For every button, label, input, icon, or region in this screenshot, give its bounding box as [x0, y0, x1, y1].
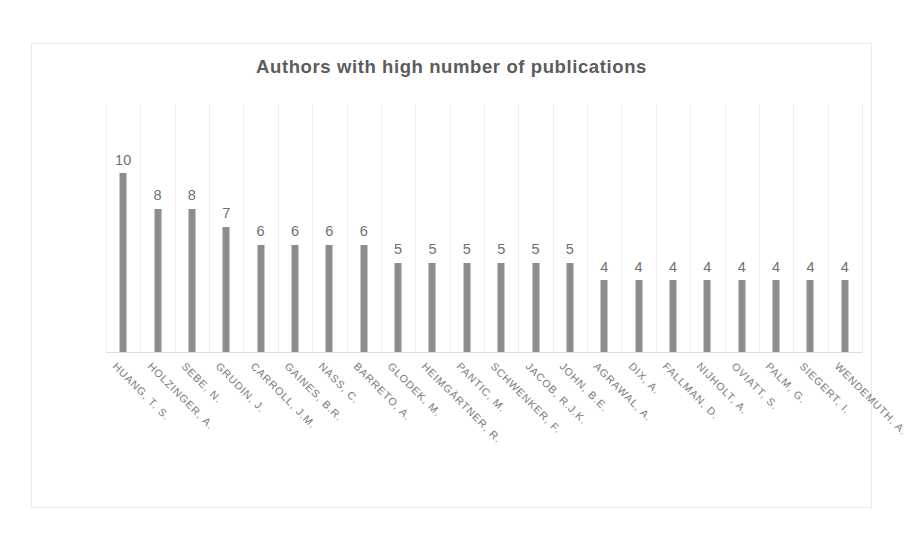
bar-value-label: 4: [600, 260, 608, 275]
bar-slot: 4: [690, 103, 724, 352]
bar-slot: 8: [175, 103, 209, 352]
chart-title: Authors with high number of publications: [32, 56, 871, 78]
x-axis-tick-label: JACOB, R.J.K.: [523, 360, 589, 426]
bar-value-label: 8: [153, 188, 161, 203]
bar-slot: 4: [793, 103, 827, 352]
bar[interactable]: [669, 280, 676, 352]
x-axis-tick-label: HOLZINGER, A.: [145, 360, 216, 431]
x-axis-tick-labels: HUANG, T. S.HOLZINGER, A.SEBE, N.GRUDIN,…: [106, 354, 862, 504]
bar[interactable]: [738, 280, 745, 352]
x-axis-tick-label: AGRAWAL, A.: [592, 360, 655, 423]
x-axis-line: [106, 352, 862, 353]
plot-area: 10887666655555544444444: [106, 104, 862, 353]
bar-value-label: 4: [738, 260, 746, 275]
bar[interactable]: [566, 263, 573, 353]
bar[interactable]: [395, 263, 402, 353]
x-axis-tick-label: GAINES, B.R.: [283, 360, 346, 423]
bar-value-label: 5: [566, 242, 574, 257]
bar-value-label: 4: [635, 260, 643, 275]
bar-slot: 7: [209, 103, 243, 352]
bar-slot: 5: [518, 103, 552, 352]
bar-value-label: 6: [360, 224, 368, 239]
bar-value-label: 4: [806, 260, 814, 275]
bar[interactable]: [807, 280, 814, 352]
bar-slot: 6: [312, 103, 346, 352]
x-axis-tick-label: CARROLL, J.M.: [248, 360, 318, 430]
bar[interactable]: [360, 245, 367, 352]
bar-value-label: 7: [222, 206, 230, 221]
bar-slot: 8: [140, 103, 174, 352]
bar-value-label: 6: [325, 224, 333, 239]
bar-slot: 6: [278, 103, 312, 352]
bar[interactable]: [120, 173, 127, 352]
bar[interactable]: [498, 263, 505, 353]
bar[interactable]: [326, 245, 333, 352]
bar-slot: 4: [587, 103, 621, 352]
bar-value-label: 5: [497, 242, 505, 257]
bar-value-label: 4: [669, 260, 677, 275]
bar-slot: 5: [381, 103, 415, 352]
bar[interactable]: [463, 263, 470, 353]
bar-slot: 6: [243, 103, 277, 352]
bar[interactable]: [704, 280, 711, 352]
bar-value-label: 5: [394, 242, 402, 257]
bar[interactable]: [291, 245, 298, 352]
bar-value-label: 4: [703, 260, 711, 275]
bar[interactable]: [257, 245, 264, 352]
bar-slot: 4: [828, 103, 862, 352]
bar-slot: 4: [759, 103, 793, 352]
bar-slot: 4: [621, 103, 655, 352]
bar-value-label: 4: [841, 260, 849, 275]
bar-value-label: 4: [772, 260, 780, 275]
chart-figure: Authors with high number of publications…: [31, 43, 872, 508]
bar-slot: 4: [656, 103, 690, 352]
bar-slot: 5: [415, 103, 449, 352]
bar-slot: 5: [484, 103, 518, 352]
bar[interactable]: [773, 280, 780, 352]
gridline: [862, 104, 863, 353]
bar-slot: 5: [450, 103, 484, 352]
bar-slot: 5: [553, 103, 587, 352]
bar-slot: 10: [106, 103, 140, 352]
bar[interactable]: [429, 263, 436, 353]
bar-value-label: 5: [463, 242, 471, 257]
bar-slot: 4: [725, 103, 759, 352]
bar-value-label: 6: [257, 224, 265, 239]
bar[interactable]: [635, 280, 642, 352]
bar-value-label: 6: [291, 224, 299, 239]
bar[interactable]: [841, 280, 848, 352]
bar-value-label: 8: [188, 188, 196, 203]
bar[interactable]: [223, 227, 230, 352]
bar-value-label: 5: [428, 242, 436, 257]
bar[interactable]: [532, 263, 539, 353]
bar[interactable]: [188, 209, 195, 352]
bar-value-label: 10: [115, 153, 131, 168]
bar[interactable]: [154, 209, 161, 352]
bar-slot: 6: [347, 103, 381, 352]
bar-value-label: 5: [531, 242, 539, 257]
bar[interactable]: [601, 280, 608, 352]
